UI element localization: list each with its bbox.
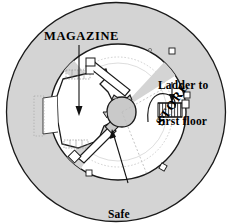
figure-canvas: MAGAZINE Ladder to first floor STORE Saf… [0, 0, 233, 224]
magazine-left-wall [43, 96, 58, 134]
central-shaft [107, 97, 136, 127]
upper-bar-end-block [86, 58, 95, 66]
label-safe-line-1: Safe [98, 209, 140, 221]
label-magazine: MAGAZINE [44, 30, 119, 43]
fitting-top [169, 48, 175, 54]
label-safe-lantern: Safe Lantern [98, 186, 140, 224]
fitting-bottom-left [86, 170, 92, 176]
